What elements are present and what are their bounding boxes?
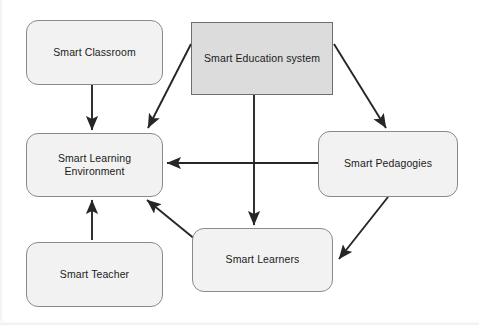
node-smart-teacher[interactable]: Smart Teacher	[26, 242, 163, 307]
node-smart-education-system-label: Smart Education system	[204, 52, 320, 65]
node-smart-learning-environment[interactable]: Smart Learning Environment	[26, 133, 163, 197]
diagram-canvas: Smart Classroom Smart Education system S…	[0, 0, 479, 325]
node-smart-learning-environment-label: Smart Learning Environment	[58, 152, 131, 178]
node-smart-pedagogies[interactable]: Smart Pedagogies	[318, 131, 458, 197]
node-smart-education-system[interactable]: Smart Education system	[191, 22, 333, 95]
edge-education-to-pedagogies	[334, 44, 386, 128]
node-smart-classroom-label: Smart Classroom	[53, 46, 136, 59]
node-smart-classroom[interactable]: Smart Classroom	[26, 20, 163, 85]
node-smart-learners-label: Smart Learners	[226, 253, 300, 266]
node-smart-learners[interactable]: Smart Learners	[192, 228, 333, 292]
node-smart-teacher-label: Smart Teacher	[60, 268, 129, 281]
edge-learners-to-environment	[147, 200, 196, 240]
node-smart-pedagogies-label: Smart Pedagogies	[344, 157, 432, 170]
edge-pedagogies-to-learners	[339, 197, 388, 259]
